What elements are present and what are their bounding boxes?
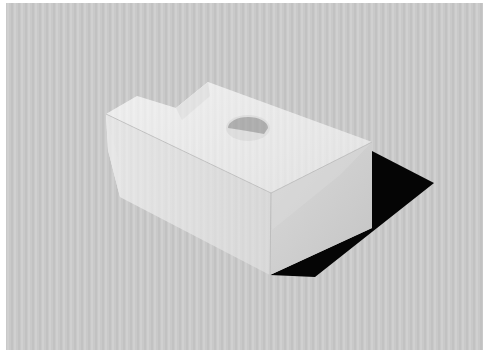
- rendered-scene: [0, 0, 490, 362]
